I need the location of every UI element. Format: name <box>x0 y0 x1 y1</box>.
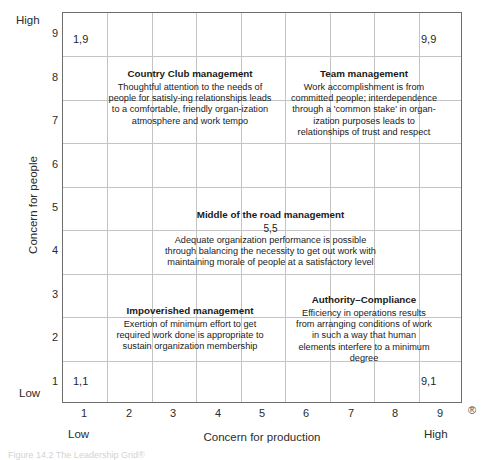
x-axis-tick-4: 4 <box>198 407 238 420</box>
style-block-country-club: Country Club management Thoughtful atten… <box>108 68 272 127</box>
style-coord: 5,5 <box>163 223 378 235</box>
y-axis-tick-8: 8 <box>36 72 58 83</box>
x-axis-tick-8: 8 <box>375 407 415 420</box>
y-axis-tick-3: 3 <box>36 289 58 300</box>
gridline-horizontal <box>63 274 461 275</box>
style-block-impoverished: Impoverished management Exertion of mini… <box>109 305 271 353</box>
style-title: Team management <box>290 68 438 81</box>
style-title: Authority–Compliance <box>293 294 435 307</box>
x-axis-title: Concern for production <box>62 431 462 443</box>
x-axis-tick-5: 5 <box>242 407 282 420</box>
style-title: Impoverished management <box>109 305 271 318</box>
style-body: Efficiency in operations results from ar… <box>293 308 435 365</box>
gridline-horizontal <box>63 187 461 188</box>
y-axis-tick-2: 2 <box>36 332 58 343</box>
x-axis-tick-6: 6 <box>286 407 326 420</box>
style-block-middle-of-the-road: Middle of the road management 5,5 Adequa… <box>163 209 378 269</box>
gridline-vertical <box>285 13 286 402</box>
style-body: Exertion of minimum effort to get requir… <box>109 319 271 353</box>
corner-label-top-left: 1,9 <box>73 33 88 45</box>
corner-label-top-right: 9,9 <box>421 33 436 45</box>
x-axis-tick-labels: 123456789 <box>62 407 462 423</box>
y-axis-tick-5: 5 <box>36 202 58 213</box>
x-axis-tick-7: 7 <box>331 407 371 420</box>
x-axis-tick-2: 2 <box>109 407 149 420</box>
y-axis-tick-1: 1 <box>36 376 58 387</box>
y-axis-tick-7: 7 <box>36 115 58 126</box>
x-axis-tick-3: 3 <box>153 407 193 420</box>
style-title: Country Club management <box>108 68 272 81</box>
corner-label-bottom-left: 1,1 <box>73 375 88 387</box>
style-body: Work accomplishment is from committed pe… <box>290 82 438 139</box>
style-title: Middle of the road management <box>163 209 378 222</box>
x-axis-tick-1: 1 <box>64 407 104 420</box>
y-axis-tick-4: 4 <box>36 245 58 256</box>
y-axis-tick-6: 6 <box>36 159 58 170</box>
x-axis-tick-9: 9 <box>420 407 460 420</box>
style-block-team: Team management Work accomplishment is f… <box>290 68 438 139</box>
figure-caption: Figure 14.2 The Leadership Grid® <box>8 450 145 460</box>
gridline-horizontal <box>63 143 461 144</box>
style-block-authority-compliance: Authority–Compliance Efficiency in opera… <box>293 294 435 365</box>
corner-label-bottom-right: 9,1 <box>421 375 436 387</box>
grid-plot-area: 1,9 9,9 1,1 9,1 Country Club management … <box>62 12 462 403</box>
y-axis-tick-9: 9 <box>36 28 58 39</box>
registered-trademark-icon: ® <box>468 404 476 416</box>
style-body: Adequate organization performance is pos… <box>163 235 378 269</box>
y-axis-tick-labels: 987654321 <box>34 12 58 403</box>
gridline-horizontal <box>63 56 461 57</box>
style-body: Thoughtful attention to the needs of peo… <box>108 82 272 128</box>
